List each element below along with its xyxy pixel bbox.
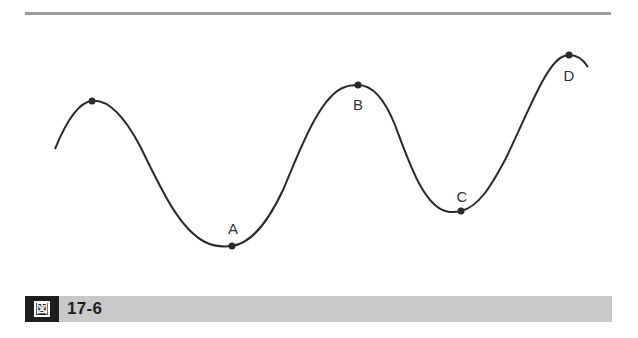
wave-diagram: A B C D [0,0,638,290]
point-d-dot [566,52,573,59]
point-a-dot [229,243,236,250]
zu-kanji-icon: 図 [34,301,50,317]
figure-caption-bar: 図 17-6 [25,296,612,322]
caption-icon-box: 図 [25,296,59,322]
wave-curve [55,55,588,247]
point-c-label: C [457,188,468,205]
point-peak-dot [89,98,96,105]
figure-number: 17-6 [67,299,102,319]
point-c-dot [458,208,465,215]
point-a-label: A [228,220,238,237]
point-d-label: D [564,67,575,84]
point-b-dot [355,82,362,89]
point-b-label: B [353,96,363,113]
